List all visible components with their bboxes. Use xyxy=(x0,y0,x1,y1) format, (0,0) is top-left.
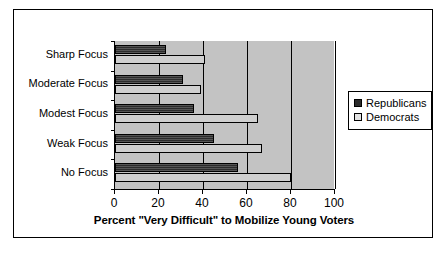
y-axis-label-weak-focus: Weak Focus xyxy=(16,137,108,149)
y-axis-label-modest-focus: Modest Focus xyxy=(16,107,108,119)
x-axis-tick-label-80: 80 xyxy=(270,196,310,210)
plot-area xyxy=(114,41,334,189)
legend-swatch-republicans xyxy=(354,99,362,107)
bar-republicans-sharp-focus xyxy=(115,45,166,54)
bar-group xyxy=(115,130,334,160)
x-axis-tick-40 xyxy=(202,189,203,194)
x-axis-tick-0 xyxy=(114,189,115,194)
x-axis-tick-label-0: 0 xyxy=(94,196,134,210)
bar-democrats-weak-focus xyxy=(115,144,262,153)
bar-democrats-moderate-focus xyxy=(115,85,201,94)
bar-group xyxy=(115,159,334,189)
bar-democrats-sharp-focus xyxy=(115,55,205,64)
x-axis-tick-80 xyxy=(290,189,291,194)
x-axis-tick-label-20: 20 xyxy=(138,196,178,210)
cropped-text-artifact xyxy=(0,0,448,9)
y-axis-label-moderate-focus: Moderate Focus xyxy=(16,77,108,89)
bar-group xyxy=(115,41,334,71)
gridline-x-100 xyxy=(335,41,336,189)
bar-democrats-modest-focus xyxy=(115,114,258,123)
bar-republicans-moderate-focus xyxy=(115,75,183,84)
legend-item-republicans: Republicans xyxy=(354,96,427,110)
x-axis-line xyxy=(114,189,335,190)
x-axis-tick-label-100: 100 xyxy=(314,196,354,210)
x-axis-tick-20 xyxy=(158,189,159,194)
legend-label-democrats: Democrats xyxy=(366,111,419,123)
bar-republicans-weak-focus xyxy=(115,134,214,143)
bar-group xyxy=(115,100,334,130)
chart-legend: Republicans Democrats xyxy=(348,91,432,130)
x-axis-title: Percent "Very Difficult" to Mobilize You… xyxy=(14,214,434,226)
bar-republicans-no-focus xyxy=(115,163,238,172)
y-axis-label-sharp-focus: Sharp Focus xyxy=(16,48,108,60)
x-axis-tick-100 xyxy=(334,189,335,194)
legend-item-democrats: Democrats xyxy=(354,110,427,124)
x-axis-tick-label-60: 60 xyxy=(226,196,266,210)
chart-frame: Percent "Very Difficult" to Mobilize You… xyxy=(13,9,433,238)
x-axis-tick-60 xyxy=(246,189,247,194)
bar-group xyxy=(115,71,334,101)
legend-label-republicans: Republicans xyxy=(366,97,427,109)
x-axis-tick-label-40: 40 xyxy=(182,196,222,210)
bar-republicans-modest-focus xyxy=(115,104,194,113)
legend-swatch-democrats xyxy=(354,113,362,121)
y-axis-tick xyxy=(111,41,115,42)
y-axis-label-no-focus: No Focus xyxy=(16,166,108,178)
bar-democrats-no-focus xyxy=(115,173,291,182)
